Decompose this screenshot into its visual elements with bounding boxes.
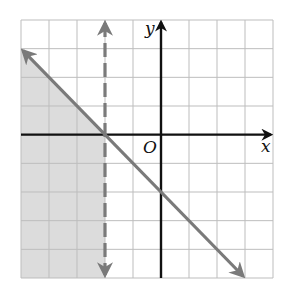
inequality-graph: x y O bbox=[0, 0, 282, 300]
x-axis-label: x bbox=[261, 136, 271, 156]
y-axis-label: y bbox=[144, 18, 155, 38]
origin-label: O bbox=[143, 137, 157, 157]
